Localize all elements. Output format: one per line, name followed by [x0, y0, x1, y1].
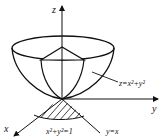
y-axis-label: y — [151, 103, 157, 114]
circle-equation-label: x²+y²=1 — [45, 127, 73, 136]
surface-equation-label: z=x²+y² — [118, 79, 145, 88]
paraboloid-diagram: z y x z=x²+y² x²+y²=1 y=x — [0, 0, 165, 140]
x-axis-label: x — [3, 123, 9, 134]
line-equation-label: y=x — [105, 127, 119, 136]
z-axis-label: z — [51, 4, 56, 15]
